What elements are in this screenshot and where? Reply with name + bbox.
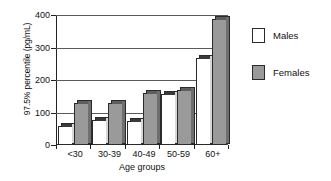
bar-group [161,15,196,145]
bar-females-30-39 [108,103,123,145]
plot-area: 0100200300400 <3030-3940-4950-5960+ [56,15,228,145]
y-axis-tick-label: 100 [35,108,50,118]
y-axis-tick [51,80,56,81]
bar-males-60+ [196,58,211,145]
y-axis-tick-label: 200 [35,75,50,85]
legend-label-females: Females [273,67,309,78]
x-axis-tick [159,145,160,149]
x-axis-tick-label: 50-59 [167,149,190,159]
x-axis-tick-label: 60+ [205,149,220,159]
legend-swatch-males [252,28,265,43]
legend-item-males: Males [252,28,328,43]
bar-group [92,15,127,145]
bar-side-face [191,87,195,144]
bar-group [127,15,162,145]
y-axis-tick [51,15,56,16]
bar-side-face [88,100,92,144]
chart-legend: Males Females [252,28,328,102]
bar-side-face [226,16,230,144]
bar-females-60+ [212,19,227,145]
x-axis-tick [228,145,229,149]
x-axis-tick [90,145,91,149]
bar-females-40-49 [143,93,158,145]
legend-swatch-females [252,65,265,80]
x-axis-tick-label: 40-49 [132,149,155,159]
y-axis-tick-label: 300 [35,43,50,53]
y-axis-tick-label: 400 [35,10,50,20]
y-axis-tick-label: 0 [45,140,50,150]
bar-group [58,15,93,145]
bar-side-face [122,100,126,144]
bar-females-<30 [74,103,89,145]
y-axis-tick [51,48,56,49]
chart-figure: 97.5% percentile (pg/mL) 0100200300400 <… [0,0,331,181]
y-axis-tick [51,113,56,114]
bar-group [196,15,231,145]
legend-label-males: Males [273,30,298,41]
y-axis-title: 97.5% percentile (pg/mL) [22,0,32,139]
bar-males-30-39 [92,120,107,145]
bar-males-<30 [58,126,73,145]
bar-males-50-59 [161,94,176,145]
legend-item-females: Females [252,65,328,80]
x-axis-tick-label: <30 [68,149,83,159]
x-axis-title: Age groups [56,162,228,172]
x-axis-tick [125,145,126,149]
x-axis-tick [56,145,57,149]
bar-males-40-49 [127,121,142,145]
x-axis-tick-label: 30-39 [98,149,121,159]
x-axis-tick [194,145,195,149]
bar-side-face [157,90,161,144]
bar-females-50-59 [177,90,192,145]
